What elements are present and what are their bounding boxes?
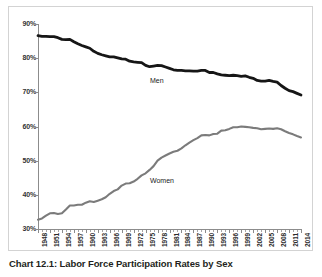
x-tick-mark	[74, 230, 75, 233]
x-tick-mark	[249, 230, 250, 232]
x-tick-label: 1951	[53, 233, 60, 247]
x-tick-mark	[297, 230, 298, 232]
y-tick-label: 30%	[23, 225, 36, 232]
x-tick-mark	[189, 230, 190, 232]
x-tick-label: 1960	[89, 233, 96, 247]
x-tick-mark	[269, 230, 270, 232]
x-tick-label: 1981	[173, 233, 180, 247]
x-tick-label: 2014	[304, 233, 311, 247]
x-tick-mark	[213, 230, 214, 232]
y-axis-line	[38, 24, 39, 230]
x-tick-mark	[134, 230, 135, 233]
x-tick-mark	[150, 230, 151, 232]
x-tick-mark	[209, 230, 210, 232]
x-tick-label: 1969	[125, 233, 132, 247]
x-tick-mark	[241, 230, 242, 233]
x-tick-mark	[277, 230, 278, 233]
y-tick-label: 40%	[23, 191, 36, 198]
x-tick-label: 2008	[280, 233, 287, 247]
y-tick-label: 70%	[23, 88, 36, 95]
x-tick-mark	[301, 230, 302, 233]
series-annotation-men: Men	[150, 77, 164, 84]
x-tick-label: 1987	[196, 233, 203, 247]
x-tick-label: 1984	[184, 233, 191, 247]
x-tick-mark	[197, 230, 198, 232]
x-tick-mark	[58, 230, 59, 232]
x-tick-mark	[98, 230, 99, 233]
x-tick-mark	[82, 230, 83, 232]
x-tick-mark	[229, 230, 230, 233]
x-tick-mark	[217, 230, 218, 233]
x-tick-mark	[245, 230, 246, 232]
x-tick-label: 1948	[41, 233, 48, 247]
x-tick-mark	[281, 230, 282, 232]
x-tick-mark	[62, 230, 63, 233]
x-tick-mark	[90, 230, 91, 232]
x-tick-mark	[122, 230, 123, 233]
x-tick-mark	[102, 230, 103, 232]
x-tick-mark	[173, 230, 174, 232]
x-tick-mark	[285, 230, 286, 232]
x-tick-mark	[225, 230, 226, 232]
x-tick-label: 1963	[101, 233, 108, 247]
x-tick-mark	[46, 230, 47, 232]
x-tick-mark	[146, 230, 147, 233]
x-tick-mark	[293, 230, 294, 232]
x-tick-label: 1996	[232, 233, 239, 247]
x-tick-mark	[126, 230, 127, 232]
x-tick-mark	[233, 230, 234, 232]
x-tick-label: 2002	[256, 233, 263, 247]
x-tick-mark	[138, 230, 139, 232]
y-tick-label: 60%	[23, 123, 36, 130]
x-tick-mark	[170, 230, 171, 233]
x-tick-mark	[261, 230, 262, 232]
x-tick-label: 1972	[137, 233, 144, 247]
x-tick-mark	[221, 230, 222, 232]
chart-caption: Chart 12.1: Labor Force Participation Ra…	[9, 258, 233, 269]
x-tick-mark	[205, 230, 206, 233]
y-tick-label: 80%	[23, 54, 36, 61]
y-tick-label: 90%	[23, 20, 36, 27]
x-tick-label: 1978	[161, 233, 168, 247]
x-tick-label: 1975	[149, 233, 156, 247]
x-tick-mark	[86, 230, 87, 233]
x-tick-mark	[54, 230, 55, 232]
x-tick-mark	[154, 230, 155, 232]
chart-page: 90%80%70%60%50%40%30% 194819511954195719…	[0, 0, 322, 277]
x-tick-label: 2005	[268, 233, 275, 247]
x-tick-mark	[42, 230, 43, 232]
x-tick-mark	[201, 230, 202, 232]
x-tick-mark	[130, 230, 131, 232]
x-tick-mark	[94, 230, 95, 232]
x-tick-mark	[118, 230, 119, 232]
x-tick-mark	[114, 230, 115, 232]
x-tick-mark	[106, 230, 107, 232]
x-tick-mark	[265, 230, 266, 233]
x-tick-mark	[78, 230, 79, 232]
x-tick-label: 1954	[65, 233, 72, 247]
x-tick-mark	[193, 230, 194, 233]
x-tick-mark	[110, 230, 111, 233]
chart-frame	[8, 6, 313, 251]
x-tick-mark	[177, 230, 178, 232]
x-tick-mark	[237, 230, 238, 232]
x-tick-label: 2011	[292, 233, 299, 247]
x-tick-label: 1993	[220, 233, 227, 247]
x-tick-mark	[66, 230, 67, 232]
x-tick-label: 1990	[208, 233, 215, 247]
y-tick-label: 50%	[23, 157, 36, 164]
x-tick-label: 1966	[113, 233, 120, 247]
x-tick-mark	[158, 230, 159, 233]
x-tick-label: 1957	[77, 233, 84, 247]
x-tick-mark	[289, 230, 290, 233]
x-tick-mark	[142, 230, 143, 232]
series-annotation-women: Women	[150, 177, 174, 184]
x-tick-mark	[70, 230, 71, 232]
x-tick-label: 1999	[244, 233, 251, 247]
x-tick-mark	[253, 230, 254, 233]
x-tick-mark	[50, 230, 51, 233]
x-tick-mark	[257, 230, 258, 232]
x-tick-mark	[162, 230, 163, 232]
y-axis-labels: 90%80%70%60%50%40%30%	[8, 0, 36, 245]
x-tick-mark	[181, 230, 182, 233]
